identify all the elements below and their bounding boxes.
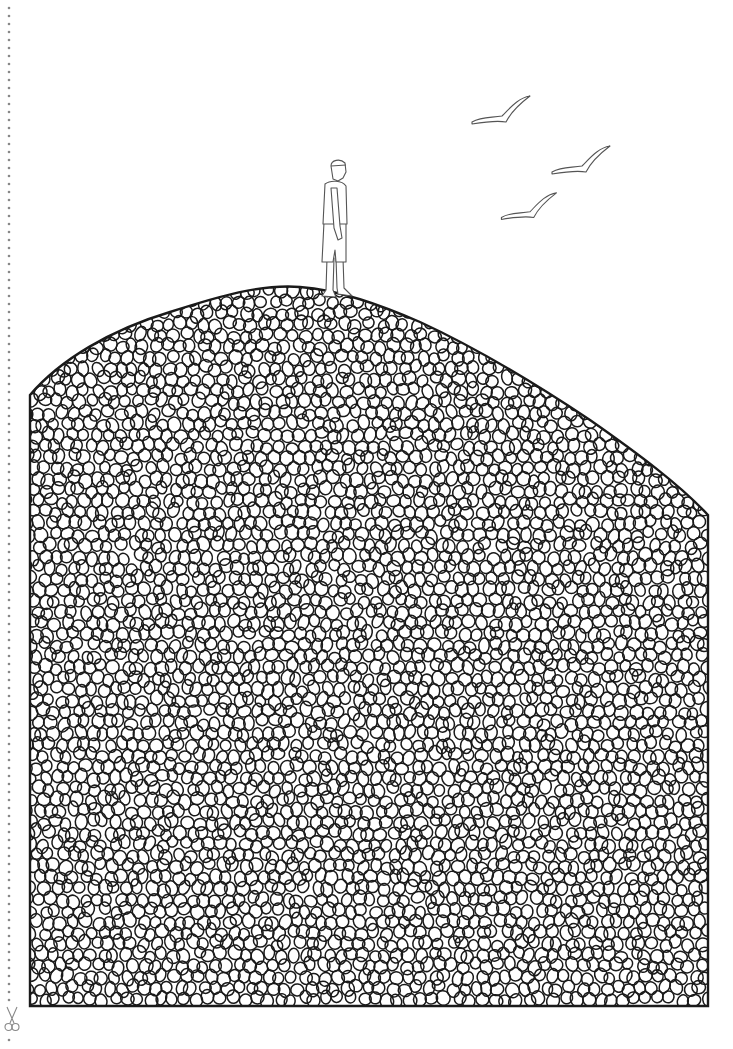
bird-2-icon [552, 146, 610, 174]
scissors-icon [5, 1007, 19, 1031]
bird-1-icon [472, 96, 530, 124]
standing-man-figure [322, 160, 352, 297]
birds-group [472, 96, 610, 219]
cut-line [8, 7, 11, 1042]
coloring-page [0, 0, 733, 1049]
coloring-illustration [0, 0, 733, 1049]
bird-3-icon [501, 193, 556, 220]
pebble-texture [15, 269, 718, 1011]
